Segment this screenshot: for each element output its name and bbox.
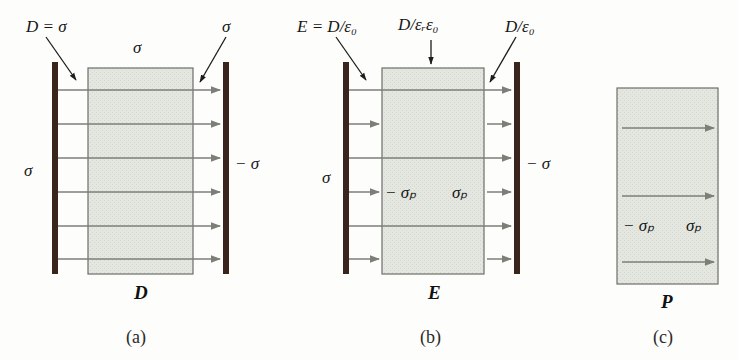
panel-b-caption: (b) (420, 327, 441, 348)
panel-b-left-plate-label: σ (322, 169, 330, 186)
panel-a-right-plate (223, 62, 229, 274)
panel-b-bound-charge-positive: σₚ (452, 182, 467, 203)
panel-b-field-symbol: E (428, 282, 441, 304)
panel-a-caption: (a) (126, 327, 146, 348)
panel-b-top-center-label: D/εᵣε₀ (398, 16, 439, 33)
panel-a-left-plate-label: σ (24, 162, 32, 179)
dielectric-field-figure: D = σ σ σ σ − σ D (a) E = D/ε₀ D/εᵣε₀ D/… (0, 0, 739, 360)
panel-a-graphics (46, 37, 229, 274)
panel-a-top-left-label: D = σ (26, 18, 67, 35)
panel-c-bound-charge-negative: − σₚ (623, 215, 654, 236)
panel-c-dielectric-block (617, 88, 718, 284)
panel-b-top-left-label: E = D/ε₀ (297, 18, 357, 35)
panel-b-pointer-left (336, 37, 366, 80)
panel-c-graphics (617, 88, 718, 284)
panel-a-dielectric-block (88, 68, 193, 274)
panel-a-pointer-left (46, 37, 76, 80)
panel-b-graphics (336, 37, 520, 274)
panel-b-top-right-label: D/ε₀ (505, 18, 535, 35)
panel-c-caption: (c) (653, 327, 673, 348)
panel-b-bound-charge-negative: − σₚ (385, 182, 416, 203)
panel-a-right-plate-label: − σ (235, 155, 259, 172)
panel-c-bound-charge-positive: σₚ (686, 215, 701, 236)
panel-b-right-plate (514, 62, 520, 274)
panel-a-field-symbol: D (134, 282, 148, 304)
panel-a-top-center-label: σ (133, 39, 141, 56)
panel-a-pointer-right (200, 37, 226, 82)
panel-b-left-plate (343, 62, 349, 274)
figure-canvas (0, 0, 739, 360)
panel-b-dielectric-block (382, 68, 484, 274)
panel-c-field-symbol: P (661, 291, 673, 313)
panel-b-pointer-right (490, 37, 516, 82)
panel-a-left-plate (52, 62, 58, 274)
panel-b-right-plate-label: − σ (526, 155, 550, 172)
panel-a-top-right-label: σ (222, 18, 230, 35)
